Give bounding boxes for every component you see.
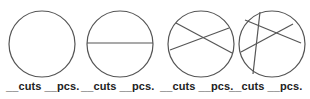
circle-cuts-diagram [0, 0, 310, 80]
answer-label-circle-1: __cuts __pcs. [6, 80, 79, 92]
cut-line-1 [245, 20, 301, 43]
circle-outline [9, 11, 75, 77]
answer-label-circle-2: __cuts __pcs. [81, 80, 154, 92]
circle-3 [168, 11, 234, 77]
circle-1 [9, 11, 75, 77]
answer-label-circle-4: __cuts __pcs. [229, 80, 302, 92]
circle-outline [87, 11, 153, 77]
answer-label-circle-3: __cuts __pcs. [160, 80, 233, 92]
circle-4 [239, 11, 305, 77]
cut-line-1 [176, 23, 232, 53]
circle-outline [239, 11, 305, 77]
answer-labels-row: __cuts __pcs. __cuts __pcs. __cuts __pcs… [0, 80, 310, 96]
circle-2 [87, 11, 153, 77]
circle-outline [168, 11, 234, 77]
cut-line-2 [241, 24, 293, 52]
